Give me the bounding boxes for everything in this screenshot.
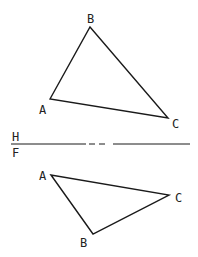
top-view-triangle: A B C xyxy=(39,12,179,131)
fold-label-h: H xyxy=(12,130,19,144)
top-label-b: B xyxy=(87,12,94,26)
top-label-c: C xyxy=(172,117,179,131)
front-label-b: B xyxy=(80,236,87,250)
fold-line-hf: H F xyxy=(11,130,190,160)
front-view-triangle: A B C xyxy=(39,169,182,250)
fold-label-f: F xyxy=(12,146,19,160)
orthographic-projection-diagram: A B C H F A B C xyxy=(0,0,198,257)
front-label-a: A xyxy=(39,169,47,183)
front-label-c: C xyxy=(175,191,182,205)
top-label-a: A xyxy=(39,103,47,117)
